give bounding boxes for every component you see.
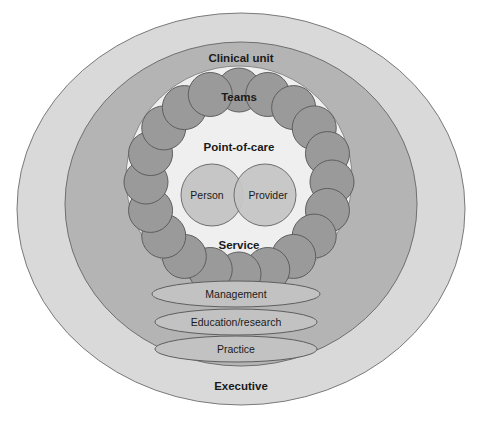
provider-label: Provider: [248, 189, 288, 201]
lozenge-education-research: Education/research: [155, 309, 317, 335]
nested-ellipse-model-diagram: Clinical unit ServiceTeamsPoint-of-care …: [0, 0, 480, 425]
executive-label: Executive: [214, 380, 268, 392]
service-label: Service: [219, 239, 260, 251]
person-label: Person: [190, 189, 223, 201]
management-label: Management: [205, 288, 266, 300]
point-of-care-label: Point-of-care: [204, 141, 275, 153]
teams-label: Teams: [221, 91, 257, 103]
lozenge-management: Management: [152, 281, 320, 307]
diagram-canvas: Clinical unit ServiceTeamsPoint-of-care …: [0, 0, 480, 425]
clinical-unit-label: Clinical unit: [208, 52, 273, 64]
lozenge-practice: Practice: [155, 336, 317, 362]
practice-label: Practice: [217, 343, 255, 355]
education-research-label: Education/research: [191, 316, 282, 328]
